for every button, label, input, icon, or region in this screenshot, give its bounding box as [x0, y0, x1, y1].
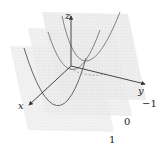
z-axis-label: z [64, 10, 71, 21]
x-axis-label: x [18, 100, 24, 111]
plane-label-1: 1 [109, 134, 115, 145]
y-axis-label: y [137, 85, 144, 96]
plane-label-minus-1: −1 [142, 98, 157, 109]
3d-parabola-diagram: z y x −1 0 1 [0, 0, 164, 149]
plane-label-0: 0 [124, 116, 130, 127]
